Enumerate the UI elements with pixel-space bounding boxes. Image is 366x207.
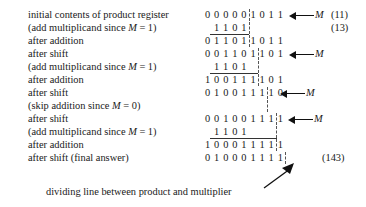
label-text: (add multiplicand since [28,61,128,72]
decimal-value-13: (13) [331,22,348,34]
trace-row-after-addition-3: after addition 100011111 [0,139,366,151]
trace-row-after-shift-3: after shift 001001111 M [0,113,366,125]
row-bits-after-addition-1: 011011011 [203,35,285,47]
bit: 1 [239,139,248,151]
bit: 1 [258,87,267,99]
m-pointer-after-shift-3: M [288,113,323,125]
bit: 1 [239,87,248,99]
bit: 1 [267,87,276,99]
bit: 1 [221,22,230,34]
label-text: (add multiplicand since [28,22,128,33]
bit: 1 [258,48,267,60]
bit: 1 [203,139,212,151]
bit: 0 [230,139,239,151]
trace-row-initial: initial contents of product register 000… [0,9,366,21]
bit: 1 [248,48,257,60]
product-multiplier-divider [258,74,259,86]
row-label-after-shift-3: after shift [28,113,68,125]
trace-row-add-2: (add multiplicand since M = 1) 1101 [0,61,366,73]
bit: 1 [248,152,257,164]
row-bits-after-shift-1: 001101101 [203,48,285,60]
trace-row-after-addition-2: after addition 100111101 [0,74,366,86]
decimal-value-11: (11) [331,9,348,21]
bit: 0 [230,87,239,99]
bit: 1 [239,74,248,86]
caption-pointer-arrow-icon [262,163,296,190]
product-multiplier-divider [267,100,268,112]
row-bits-initial: 000001011 [203,9,285,21]
bit: 1 [221,48,230,60]
bit: 1 [276,139,285,151]
bit: 0 [230,9,239,21]
bit: 1 [276,48,285,60]
bit: 0 [221,87,230,99]
bit: 0 [212,113,221,125]
trace-row-final: after shift (final answer) 010001111 (14… [0,152,366,164]
bit: 0 [221,152,230,164]
row-label-final: after shift (final answer) [28,152,129,164]
bit: 0 [212,48,221,60]
bit: 0 [258,9,267,21]
product-multiplier-divider [249,9,250,21]
m-register-label: M [315,48,324,59]
product-multiplier-divider [249,22,250,34]
bit: 0 [221,139,230,151]
label-text: = 1) [137,22,157,33]
bit: 0 [212,74,221,86]
decimal-value-143: (143) [322,152,345,164]
bit: 1 [212,35,221,47]
bit: 0 [230,35,239,47]
label-text: = 0) [121,100,141,111]
trace-row-after-addition-1: after addition 011011011 [0,35,366,47]
left-arrow-icon [289,10,315,22]
row-label-after-addition-2: after addition [28,74,84,86]
bit: 1 [230,74,239,86]
bit: 0 [230,22,239,34]
bit: 1 [248,9,257,21]
bit: 1 [267,139,276,151]
row-label-add-3: (add multiplicand since M = 1) [28,126,157,138]
m-variable: M [112,100,121,111]
bit: 0 [258,35,267,47]
bit: 0 [230,61,239,73]
bit: 1 [212,87,221,99]
left-arrow-icon [289,49,315,61]
row-label-after-shift-1: after shift [28,48,68,60]
row-label-after-shift-2: after shift [28,87,68,99]
bit: 1 [267,113,276,125]
bit: 1 [212,152,221,164]
bit: 0 [221,74,230,86]
figure-canvas: initial contents of product register 000… [0,0,366,207]
bit: 1 [212,61,221,73]
bit: 1 [221,35,230,47]
bit: 0 [203,113,212,125]
bit: 0 [239,9,248,21]
bit: 1 [212,126,221,138]
bit: 0 [267,74,276,86]
row-label-skip: (skip addition since M = 0) [28,100,140,112]
row-label-add-1: (add multiplicand since M = 1) [28,22,157,34]
trace-row-add-3: (add multiplicand since M = 1) 1101 [0,126,366,138]
bit: 0 [239,48,248,60]
bit: 1 [276,35,285,47]
row-bits-after-shift-2: 010011110 [203,87,285,99]
bit: 1 [276,9,285,21]
m-register-label: M [306,87,315,98]
left-arrow-icon [280,88,306,100]
bit: 1 [248,35,257,47]
bit: 1 [239,61,248,73]
bit: 1 [248,113,257,125]
product-multiplier-divider [267,87,268,99]
label-text: (skip addition since [28,100,112,111]
bit: 0 [230,126,239,138]
row-bits-after-addition-3: 100011111 [203,139,285,151]
bit: 0 [239,152,248,164]
row-label-after-addition-1: after addition [28,35,84,47]
bit: 0 [203,87,212,99]
bit: 1 [230,48,239,60]
bit: 0 [212,139,221,151]
m-pointer-after-shift-1: M [289,48,324,60]
row-bits-add-2: 1101 [212,61,248,73]
product-multiplier-divider [249,35,250,47]
bit: 0 [203,48,212,60]
